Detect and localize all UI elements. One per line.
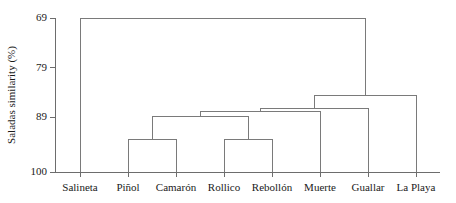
y-tick-label: 100: [31, 165, 48, 177]
y-tick-label: 69: [36, 11, 48, 23]
y-tick-label: 79: [36, 61, 48, 73]
x-tick-label-rollico: Rollico: [208, 181, 241, 193]
x-tick-label-la-playa: La Playa: [397, 181, 436, 193]
x-tick-label-muerte: Muerte: [304, 181, 336, 193]
x-tick-label-guallar: Guallar: [352, 181, 385, 193]
x-tick-labels: SalinetaPiñolCamarónRollicoRebollónMuert…: [62, 181, 435, 193]
dendrogram-links: [80, 18, 416, 172]
dendrogram-link-m3: [152, 116, 248, 139]
dendrogram-link-m2: [224, 140, 272, 172]
x-tick-label-piñol: Piñol: [116, 181, 139, 193]
dendrogram-figure: 697989100 SalinetaPiñolCamarónRollicoReb…: [0, 0, 456, 203]
y-axis-title: Saladas similarity (%): [5, 46, 18, 144]
y-tick-labels: 697989100: [31, 11, 48, 177]
axes-group: [50, 18, 440, 177]
dendrogram-link-m5: [260, 108, 368, 172]
x-tick-label-salineta: Salineta: [62, 181, 98, 193]
dendrogram-link-m6: [314, 95, 416, 172]
x-tick-label-rebollón: Rebollón: [252, 181, 293, 193]
dendrogram-link-m1: [128, 140, 176, 172]
x-tick-label-camarón: Camarón: [156, 181, 197, 193]
y-axis-title-text: Saladas similarity (%): [5, 46, 18, 144]
dendrogram-link-m4: [200, 111, 320, 172]
y-tick-label: 89: [36, 110, 48, 122]
dendrogram-chart: 697989100 SalinetaPiñolCamarónRollicoReb…: [0, 0, 456, 203]
